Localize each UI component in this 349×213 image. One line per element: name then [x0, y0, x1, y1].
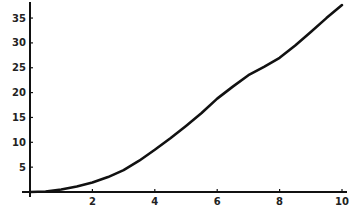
y-axis: 5101520253035: [12, 2, 33, 197]
x-tick-label: 8: [276, 196, 283, 207]
x-tick-label: 10: [335, 196, 349, 207]
y-tick-label: 35: [12, 13, 26, 24]
y-tick-label: 25: [12, 62, 26, 73]
y-tick-label: 20: [12, 87, 26, 98]
x-axis: 246810: [22, 189, 349, 207]
y-tick-label: 15: [12, 112, 26, 123]
line-chart: 5101520253035 246810: [0, 0, 349, 213]
x-tick-label: 6: [214, 196, 221, 207]
x-tick-label: 4: [151, 196, 158, 207]
y-tick-label: 30: [12, 37, 26, 48]
y-tick-label: 5: [19, 162, 26, 173]
data-curve: [30, 5, 342, 192]
y-tick-label: 10: [12, 137, 26, 148]
x-tick-label: 2: [89, 196, 96, 207]
